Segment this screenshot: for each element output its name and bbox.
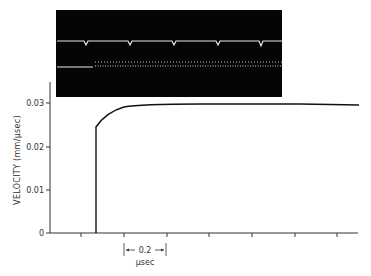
- scale-bar-value: 0.2: [139, 246, 152, 255]
- scale-bar: 0.2 μsec: [124, 243, 166, 267]
- scale-bar-unit: μsec: [136, 258, 155, 267]
- oscilloscope-photo: [56, 10, 282, 97]
- y-axis-title: VELOCITY (mm/μsec): [13, 115, 22, 205]
- x-axis: [50, 233, 358, 237]
- velocity-curve: [96, 104, 359, 233]
- velocity-figure: 0.03 0.02 0.01 0 VELOCITY (mm/μsec) 0.2 …: [0, 0, 371, 276]
- ytick-0.02: 0.02: [26, 143, 44, 152]
- y-axis: 0.03 0.02 0.01 0 VELOCITY (mm/μsec): [13, 82, 50, 238]
- ytick-0: 0: [39, 229, 44, 238]
- ytick-0.01: 0.01: [26, 186, 44, 195]
- ytick-0.03: 0.03: [26, 99, 44, 108]
